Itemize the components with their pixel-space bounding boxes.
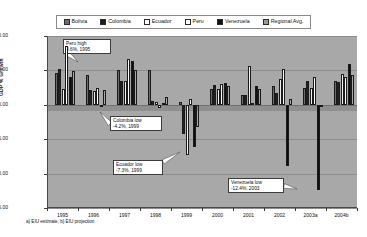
bar-bolivia-1999 bbox=[179, 102, 182, 105]
bar-bolivia-1995 bbox=[55, 73, 58, 105]
bar-colombia-2004b bbox=[337, 82, 340, 105]
annotation-ecuador-low: Ecuador low-7.3%, 1999 bbox=[113, 160, 163, 175]
bar-peru-2003a bbox=[313, 77, 316, 105]
bar-peru-2000 bbox=[220, 84, 223, 105]
annotation-line-2: -7.3%, 1999 bbox=[116, 168, 160, 174]
bar-regional-avg-2001 bbox=[258, 89, 261, 105]
bar-colombia-2003a bbox=[306, 81, 309, 104]
bar-regional-avg-1995 bbox=[72, 71, 75, 105]
bar-colombia-2002 bbox=[275, 93, 278, 105]
bar-ecuador-2001 bbox=[248, 66, 251, 105]
bar-peru-2002 bbox=[282, 69, 285, 105]
chart-figure: BoliviaColombiaEcuadorPeruVenezuelaRegio… bbox=[0, 0, 367, 237]
bar-peru-1996 bbox=[96, 88, 99, 105]
bar-ecuador-1998 bbox=[155, 102, 158, 105]
annotation-line-2: 8.6%, 1995 bbox=[66, 47, 108, 53]
bar-ecuador-1996 bbox=[93, 91, 96, 105]
bar-colombia-1999 bbox=[182, 105, 185, 134]
bar-peru-1997 bbox=[127, 59, 130, 105]
bar-bolivia-2001 bbox=[241, 95, 244, 105]
annotation-venezuela-low: Venezuela low-12.4%, 2003 bbox=[228, 178, 284, 193]
bar-peru-1995 bbox=[65, 46, 68, 105]
bar-colombia-1997 bbox=[120, 81, 123, 104]
bar-venezuela-1999 bbox=[193, 105, 196, 147]
bar-ecuador-2004b bbox=[341, 74, 344, 105]
bar-venezuela-1998 bbox=[162, 103, 165, 105]
bar-venezuela-2003a bbox=[317, 105, 320, 190]
bar-regional-avg-1997 bbox=[134, 70, 137, 104]
bar-peru-1999 bbox=[189, 99, 192, 105]
bar-ecuador-1995 bbox=[62, 89, 65, 105]
bar-bolivia-2002 bbox=[272, 86, 275, 105]
bar-bolivia-1997 bbox=[117, 70, 120, 104]
bar-venezuela-2001 bbox=[255, 86, 258, 105]
bar-ecuador-1999 bbox=[186, 105, 189, 155]
bar-colombia-2001 bbox=[244, 95, 247, 105]
bar-regional-avg-2002 bbox=[289, 99, 292, 105]
bar-venezuela-1995 bbox=[69, 77, 72, 105]
annotation-peru-high: Peru high8.6%, 1995 bbox=[63, 39, 111, 54]
bar-regional-avg-2004b bbox=[351, 75, 354, 105]
bar-ecuador-2000 bbox=[217, 89, 220, 105]
bar-ecuador-1997 bbox=[124, 81, 127, 104]
annotation-colombia-low: Colombia low-4.2%, 1999 bbox=[110, 116, 162, 131]
bar-venezuela-2004b bbox=[348, 64, 351, 105]
bar-ecuador-2003a bbox=[310, 88, 313, 105]
bar-bolivia-1998 bbox=[148, 70, 151, 104]
bar-regional-avg-1999 bbox=[196, 105, 199, 128]
bar-venezuela-2000 bbox=[224, 83, 227, 105]
annotation-line-2: -12.4%, 2003 bbox=[231, 186, 281, 192]
bar-regional-avg-2000 bbox=[227, 86, 230, 105]
bar-regional-avg-1996 bbox=[103, 90, 106, 105]
bar-colombia-1995 bbox=[58, 69, 61, 105]
bar-venezuela-1997 bbox=[131, 61, 134, 105]
bar-peru-1998 bbox=[158, 105, 161, 108]
bar-regional-avg-1998 bbox=[165, 97, 168, 105]
bar-colombia-1998 bbox=[151, 101, 154, 105]
annotation-line-2: -4.2%, 1999 bbox=[113, 124, 159, 130]
bar-ecuador-2002 bbox=[279, 79, 282, 105]
bar-peru-2004b bbox=[344, 77, 347, 105]
bar-colombia-1996 bbox=[89, 90, 92, 104]
bar-bolivia-1996 bbox=[86, 75, 89, 105]
bar-bolivia-2004b bbox=[334, 81, 337, 104]
bar-regional-avg-2003a bbox=[320, 105, 323, 107]
bar-colombia-2000 bbox=[213, 85, 216, 105]
bar-bolivia-2003a bbox=[303, 88, 306, 105]
bar-bolivia-2000 bbox=[210, 89, 213, 105]
bar-venezuela-1996 bbox=[100, 105, 103, 107]
bar-venezuela-2002 bbox=[286, 105, 289, 166]
bar-peru-2001 bbox=[251, 103, 254, 105]
